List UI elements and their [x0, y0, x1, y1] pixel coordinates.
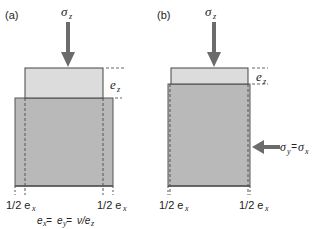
panel-b-strain-symbol: e [256, 69, 262, 84]
panel-b: (b) σ z e z σ y = σ x [157, 4, 309, 213]
panel-b-top-block [171, 68, 248, 84]
panel-b-base-block [168, 84, 250, 186]
panel-a-base-block [15, 98, 113, 186]
panel-b-load-symbol: σ [205, 4, 212, 19]
left-arrow-icon [252, 140, 280, 154]
panel-b-label: (b) [157, 9, 170, 21]
panel-a-right-bottom-label: 1/2 e [97, 199, 121, 211]
panel-a-load-symbol: σ [61, 4, 68, 19]
panel-a-right-bottom-subscript: x [122, 204, 127, 213]
panel-b-strain-subscript: z [262, 77, 267, 86]
down-arrow-icon [61, 22, 75, 67]
panel-b-right-bottom-subscript: x [264, 204, 269, 213]
svg-text:ν/e: ν/e [77, 215, 91, 226]
down-arrow-icon [207, 22, 221, 67]
panel-a: (a) σ z e z 1/2 e x 1/2 e x e x [5, 4, 127, 228]
svg-text:=: = [291, 141, 297, 152]
panel-b-left-bottom-subscript: x [184, 204, 189, 213]
panel-a-top-block [25, 68, 103, 98]
svg-text:σ: σ [298, 140, 305, 154]
svg-text:z: z [90, 219, 95, 228]
svg-text:=: = [46, 215, 52, 226]
panel-a-strain-subscript: z [116, 85, 121, 94]
svg-text:x: x [304, 147, 309, 156]
panel-b-load-subscript: z [212, 12, 217, 21]
panel-b-right-bottom-label: 1/2 e [239, 199, 263, 211]
panel-a-equation: e x = e y = ν/e z [37, 215, 95, 228]
panel-a-left-bottom-subscript: x [31, 204, 36, 213]
svg-text:=: = [66, 215, 72, 226]
strain-diagram: (a) σ z e z 1/2 e x 1/2 e x e x [0, 0, 313, 229]
panel-a-label: (a) [5, 9, 18, 21]
svg-text:σ: σ [280, 140, 287, 154]
panel-b-left-bottom-label: 1/2 e [159, 199, 183, 211]
panel-a-load-subscript: z [68, 12, 73, 21]
panel-a-left-bottom-label: 1/2 e [6, 199, 30, 211]
panel-b-lateral-stress-label: σ y = σ x [280, 140, 309, 156]
panel-a-strain-symbol: e [110, 77, 116, 92]
